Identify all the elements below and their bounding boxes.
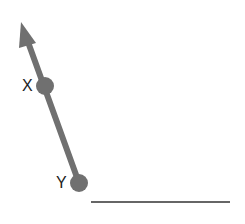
ray-diagram [0, 0, 245, 224]
point-y [70, 174, 88, 192]
point-x [36, 77, 54, 95]
label-x: X [22, 77, 33, 95]
label-y: Y [56, 174, 67, 192]
ray-xy [28, 42, 79, 183]
arrowhead-icon [19, 22, 36, 48]
diagram-canvas: X Y [0, 0, 245, 224]
